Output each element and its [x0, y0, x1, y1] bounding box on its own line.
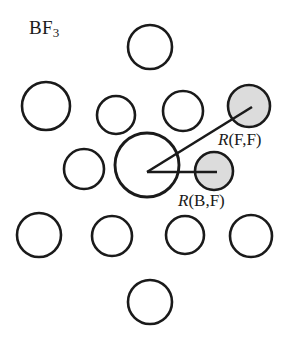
- r-f-f-argument: (F,F): [228, 130, 261, 149]
- upper-left-circle: [22, 82, 70, 130]
- top-circle: [128, 25, 172, 69]
- r-b-f-argument: (B,F): [188, 191, 224, 210]
- upper-mid-right-circle: [163, 91, 203, 131]
- r-b-f-label: R(B,F): [178, 192, 225, 209]
- r-f-f-label: R(F,F): [218, 131, 262, 148]
- lower-left-circle: [17, 213, 61, 257]
- mid-left-circle: [64, 149, 104, 189]
- central-atom-circle: [115, 133, 179, 197]
- molecule-diagram-canvas: [0, 0, 295, 341]
- upper-right-shaded-circle: [228, 85, 270, 127]
- bottom-circle: [128, 280, 172, 324]
- formula-label: BF3: [29, 18, 60, 37]
- formula-subscript: 3: [53, 25, 60, 40]
- r-f-f-symbol: R: [218, 130, 228, 149]
- formula-base: BF: [29, 17, 53, 38]
- lower-right-circle: [230, 215, 272, 257]
- bf3-structure-figure: BF3 R(F,F) R(B,F): [0, 0, 295, 341]
- lower-mid-right-circle: [166, 216, 204, 254]
- r-b-f-symbol: R: [178, 191, 188, 210]
- lower-mid-left-circle: [92, 216, 132, 256]
- upper-mid-left-circle: [97, 96, 135, 134]
